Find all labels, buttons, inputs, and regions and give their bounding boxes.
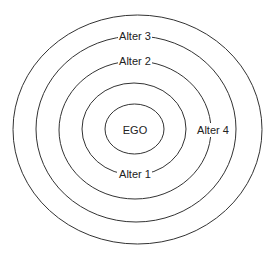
ego-network-diagram: Alter 3 Alter 2 EGO Alter 4 Alter 1	[0, 0, 275, 258]
label-ego: EGO	[123, 124, 148, 136]
label-alter-1: Alter 1	[119, 168, 151, 180]
label-alter-2: Alter 2	[119, 55, 151, 67]
label-alter-3: Alter 3	[119, 30, 151, 42]
label-alter-4: Alter 4	[197, 124, 229, 136]
